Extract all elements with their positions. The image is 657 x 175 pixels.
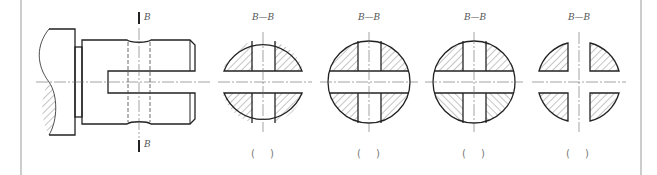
option-1-answer-blank: ( ) (251, 148, 280, 159)
option-1-section (218, 32, 312, 132)
option-2-section (320, 32, 418, 132)
option-3-title: B—B (464, 12, 486, 22)
main-view (36, 12, 210, 152)
option-2-answer-blank: ( ) (357, 148, 386, 159)
option-2-title: B—B (358, 12, 380, 22)
section-label-bottom: B (144, 139, 151, 149)
option-1-title: B—B (252, 12, 274, 22)
section-label-top: B (144, 12, 151, 22)
option-4-title: B—B (568, 12, 590, 22)
drawing-svg (0, 0, 657, 175)
option-3-section (425, 32, 523, 132)
option-3-answer-blank: ( ) (462, 148, 491, 159)
option-4-answer-blank: ( ) (566, 148, 595, 159)
option-4-section (532, 32, 626, 132)
drawing-canvas: B B B—B B—B B—B B—B ( ) ( ) ( ) ( ) (0, 0, 657, 175)
